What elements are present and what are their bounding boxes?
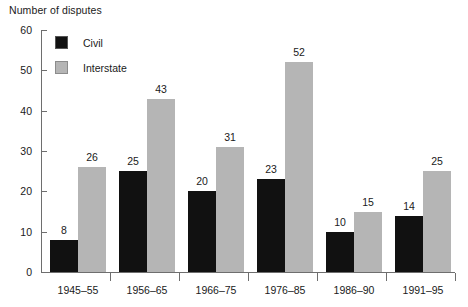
x-axis-label: 1945–55 — [43, 285, 113, 296]
legend-item-interstate[interactable]: Interstate — [55, 61, 127, 74]
bar-value-label: 43 — [137, 84, 185, 95]
y-axis-tick — [41, 70, 47, 71]
legend-swatch-civil-icon — [55, 36, 68, 49]
bar-interstate — [285, 62, 313, 272]
y-axis-tick — [41, 30, 47, 31]
bar-interstate — [423, 171, 451, 272]
x-axis-label: 1986–90 — [319, 285, 389, 296]
bar-interstate — [354, 212, 382, 273]
x-axis-label: 1991–95 — [388, 285, 458, 296]
y-axis-tick — [41, 272, 47, 273]
x-axis-tick — [317, 273, 318, 281]
y-axis-label: 20 — [2, 186, 32, 197]
bar-civil — [188, 191, 216, 272]
x-axis-tick — [386, 273, 387, 281]
legend-label-interstate: Interstate — [83, 62, 127, 74]
x-axis-tick — [455, 273, 456, 281]
x-axis-tick — [179, 273, 180, 281]
bar-value-label: 25 — [413, 156, 461, 167]
x-axis-label: 1956–65 — [112, 285, 182, 296]
y-axis-label: 40 — [2, 106, 32, 117]
y-axis-label: 10 — [2, 227, 32, 238]
y-axis-label: 0 — [2, 267, 32, 278]
y-axis-label: 30 — [2, 146, 32, 157]
y-axis-tick — [41, 191, 47, 192]
legend-item-civil[interactable]: Civil — [55, 36, 103, 49]
bar-civil — [257, 179, 285, 272]
bar-civil — [395, 216, 423, 272]
bar-chart: Number of disputes 0102030405060 1945–55… — [0, 0, 468, 307]
legend-label-civil: Civil — [83, 37, 103, 49]
x-axis-label: 1966–75 — [181, 285, 251, 296]
y-axis-label: 60 — [2, 25, 32, 36]
bar-civil — [119, 171, 147, 272]
chart-axis-title: Number of disputes — [9, 4, 102, 16]
bar-interstate — [147, 99, 175, 272]
y-axis-tick — [41, 151, 47, 152]
legend-swatch-interstate-icon — [55, 61, 68, 74]
x-axis-label: 1976–85 — [250, 285, 320, 296]
bar-interstate — [78, 167, 106, 272]
x-axis-tick — [248, 273, 249, 281]
bar-civil — [50, 240, 78, 272]
bar-value-label: 52 — [275, 47, 323, 58]
bar-civil — [326, 232, 354, 272]
y-axis-label: 50 — [2, 65, 32, 76]
y-axis-tick — [41, 111, 47, 112]
bar-value-label: 31 — [206, 132, 254, 143]
bar-interstate — [216, 147, 244, 272]
x-axis-tick — [110, 273, 111, 281]
